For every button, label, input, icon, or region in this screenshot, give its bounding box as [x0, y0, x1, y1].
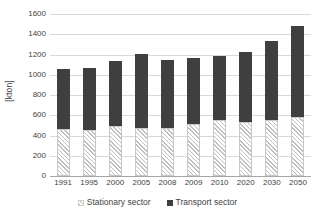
bar-segment-transport [187, 58, 200, 124]
bar-segment-stationary [187, 124, 200, 176]
bar-group [109, 61, 122, 176]
bar-group [187, 58, 200, 176]
x-tick-label: 2020 [237, 178, 255, 188]
y-tick-label: 1400 [28, 30, 46, 38]
x-tick-label: 1991 [54, 178, 72, 188]
x-tick-label: 2008 [159, 178, 177, 188]
y-tick-label: 1000 [28, 71, 46, 79]
x-tick-label: 2005 [132, 178, 150, 188]
x-tick-label: 2009 [185, 178, 203, 188]
bar-group [265, 41, 278, 176]
bar-segment-stationary [135, 128, 148, 176]
legend-item[interactable]: Transport sector [167, 198, 238, 207]
legend-item[interactable]: Stationary sector [78, 198, 151, 207]
bar-segment-transport [239, 52, 252, 122]
bar-group [57, 69, 70, 176]
y-axis-tick-labels: 02004006008001000120014001600 [16, 14, 48, 176]
bar-segment-stationary [265, 120, 278, 176]
bar-segment-transport [109, 61, 122, 127]
y-tick-label: 800 [33, 91, 46, 99]
stationary-swatch-icon [78, 200, 84, 206]
gridline [50, 34, 311, 35]
bar-segment-transport [57, 69, 70, 129]
bar-segment-stationary [109, 126, 122, 176]
bar-segment-transport [83, 68, 96, 131]
x-tick-label: 2000 [106, 178, 124, 188]
bar-group [291, 26, 304, 176]
x-axis-tick-labels: 1991199520002005200820092010202020302050 [50, 178, 311, 192]
bar-group [135, 54, 148, 176]
bar-group [161, 60, 174, 176]
y-tick-label: 1200 [28, 51, 46, 59]
bar-group [239, 52, 252, 176]
y-tick-label: 1600 [28, 10, 46, 18]
gridline [50, 14, 311, 15]
y-tick-label: 200 [33, 152, 46, 160]
y-axis-title-label: [kton] [4, 80, 14, 101]
transport-swatch-icon [167, 200, 173, 206]
x-tick-label: 1995 [80, 178, 98, 188]
bar-group [213, 56, 226, 176]
x-tick-label: 2030 [263, 178, 281, 188]
bar-segment-stationary [57, 129, 70, 176]
chart-legend: Stationary sectorTransport sector [0, 198, 315, 207]
axis-line-zero [50, 176, 311, 177]
x-tick-label: 2050 [289, 178, 307, 188]
bar-segment-stationary [239, 122, 252, 176]
bar-segment-transport [265, 41, 278, 119]
legend-label: Transport sector [176, 198, 238, 207]
bar-segment-transport [161, 60, 174, 129]
bar-segment-transport [213, 56, 226, 120]
y-tick-label: 0 [42, 172, 46, 180]
bar-segment-stationary [291, 117, 304, 176]
bar-segment-transport [291, 26, 304, 117]
bar-segment-transport [135, 54, 148, 128]
bar-group [83, 68, 96, 176]
bar-segment-stationary [161, 128, 174, 176]
plot-area [50, 14, 311, 176]
x-tick-label: 2010 [211, 178, 229, 188]
y-tick-label: 600 [33, 111, 46, 119]
y-tick-label: 400 [33, 132, 46, 140]
bar-segment-stationary [213, 120, 226, 176]
stacked-bar-chart: [kton] 02004006008001000120014001600 199… [0, 0, 315, 220]
legend-label: Stationary sector [87, 198, 151, 207]
bar-segment-stationary [83, 130, 96, 176]
